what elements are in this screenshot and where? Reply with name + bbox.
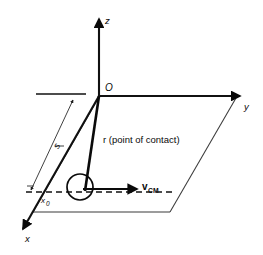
rolling-ball [67,174,93,200]
v-cm-label: v CM [142,181,159,194]
arc-length-label: s [50,141,62,151]
x-offset-label: x 0 [40,196,50,207]
xy-plane-parallelogram [33,97,236,212]
x-offset-subscript: 0 [46,200,50,207]
plane-edge-right [170,98,236,212]
y-axis-label: y [243,101,250,112]
physics-diagram: z y x O s x 0 r (point of contact) v CM [0,0,263,255]
origin-label: O [105,82,113,93]
x-axis [23,96,99,229]
v-cm-subscript: CM [148,187,159,194]
diagram-canvas: z y x O s x 0 r (point of contact) v CM [0,0,263,255]
z-axis-label: z [104,15,110,26]
x-axis-label: x [24,233,31,244]
r-vector-label: r (point of contact) [103,134,180,145]
